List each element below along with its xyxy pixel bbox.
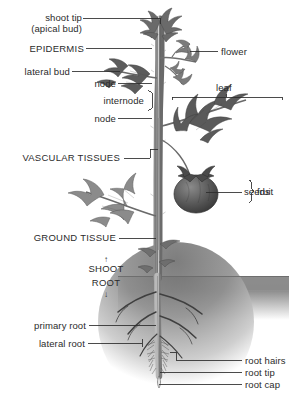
label-root-tip: root tip <box>245 367 275 378</box>
label-node-upper: node <box>74 78 116 89</box>
label-flower: flower <box>221 46 247 57</box>
label-vascular-tissues: VASCULAR TISSUES <box>14 152 120 163</box>
label-root-cap: root cap <box>245 379 280 390</box>
tomato-fruit <box>162 140 218 213</box>
label-root-hairs: root hairs <box>245 355 286 366</box>
label-apical-bud-line2: (apical bud) <box>8 23 82 34</box>
flower-cluster <box>160 40 199 85</box>
label-ground-tissue: GROUND TISSUE <box>22 232 116 243</box>
label-primary-root: primary root <box>14 320 86 331</box>
label-shoot-tip-line1: shoot tip <box>8 12 82 23</box>
plant-anatomy-figure: shoot tip (apical bud) EPIDERMIS lateral… <box>0 0 289 407</box>
label-fruit: fruit <box>257 186 273 197</box>
label-leaf: leaf <box>216 82 232 93</box>
arrow-down-root-icon: ↓ <box>84 289 128 300</box>
label-lateral-bud: lateral bud <box>4 66 70 77</box>
label-internode: internode <box>60 95 144 106</box>
compound-leaf-right <box>162 85 248 143</box>
label-shoot-tip: shoot tip (apical bud) <box>8 12 82 34</box>
compound-leaf-left-lower <box>68 173 156 227</box>
label-root: ROOT <box>78 277 134 288</box>
label-node-lower: node <box>74 113 116 124</box>
label-shoot: SHOOT <box>78 263 134 274</box>
label-lateral-root: lateral root <box>14 338 85 349</box>
label-epidermis: EPIDERMIS <box>6 43 84 54</box>
